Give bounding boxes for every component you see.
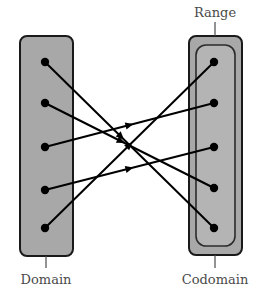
domain-point-d1 bbox=[41, 58, 49, 66]
diagram-canvas: Domain Codomain Range bbox=[0, 0, 259, 300]
domain-point-d2 bbox=[41, 99, 49, 107]
codomain-label: Codomain bbox=[182, 272, 249, 287]
domain-point-d4 bbox=[41, 186, 49, 194]
codomain-point-c2 bbox=[210, 99, 218, 107]
function-diagram: Domain Codomain Range bbox=[0, 0, 259, 300]
codomain-point-c5 bbox=[210, 224, 218, 232]
domain-label: Domain bbox=[21, 272, 72, 287]
codomain-point-c1 bbox=[210, 58, 218, 66]
range-label: Range bbox=[194, 5, 237, 20]
domain-point-d5 bbox=[41, 224, 49, 232]
domain-point-d3 bbox=[41, 143, 49, 151]
codomain-point-c3 bbox=[210, 143, 218, 151]
codomain-point-c4 bbox=[210, 184, 218, 192]
